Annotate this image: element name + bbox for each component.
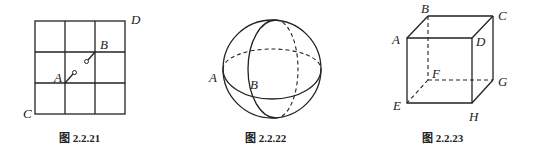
label-A: A — [391, 32, 400, 47]
caption: 图 2.2.22 — [245, 132, 287, 144]
label-D: D — [130, 12, 141, 27]
label-A: A — [53, 70, 62, 85]
caption: 图 2.2.23 — [422, 132, 464, 144]
label-A: A — [208, 70, 217, 85]
caption: 图 2.2.21 — [59, 132, 100, 144]
label-B: B — [100, 37, 108, 52]
figures-canvas: A B C D 图 2.2.21 A B 图 2.2.22 A B — [0, 0, 535, 161]
label-B: B — [250, 77, 258, 92]
label-D: D — [475, 34, 486, 49]
label-C: C — [498, 8, 507, 23]
label-H: H — [468, 109, 479, 124]
label-C: C — [23, 106, 32, 121]
figure-cube: A B C D E F G H 图 2.2.23 — [391, 1, 508, 144]
figure-grid: A B C D 图 2.2.21 — [23, 12, 141, 144]
label-G: G — [498, 74, 508, 89]
label-B: B — [421, 1, 429, 16]
figure-sphere: A B 图 2.2.22 — [208, 20, 321, 144]
label-F: F — [431, 66, 441, 81]
label-E: E — [392, 98, 401, 113]
